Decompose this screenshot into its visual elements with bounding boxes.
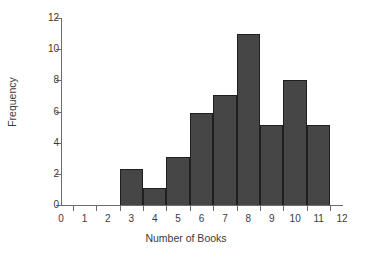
x-axis-tick-label: 10 (283, 214, 307, 224)
histogram-bar (190, 113, 213, 205)
x-axis-tick (166, 206, 167, 211)
x-axis-tick-label: 4 (143, 214, 167, 224)
x-axis-title: Number of Books (0, 232, 372, 244)
y-axis-tick-label: 4 (19, 138, 59, 148)
x-axis-tick-label: 6 (190, 214, 214, 224)
x-axis-tick-label: 0 (49, 214, 73, 224)
x-axis-tick (237, 206, 238, 211)
plot-area: 024681012 0123456789101112 Frequency Num… (0, 0, 372, 261)
histogram-bar (166, 157, 189, 205)
y-axis-tick-label: 12 (19, 13, 59, 23)
y-axis-tick-label: 6 (19, 107, 59, 117)
histogram-bar (260, 125, 283, 205)
y-axis-tick-label: 8 (19, 75, 59, 85)
x-axis-tick-label: 5 (166, 214, 190, 224)
histogram-bar (307, 125, 330, 205)
y-axis-tick-label: 2 (19, 169, 59, 179)
histogram-bar (143, 188, 166, 205)
x-axis-tick-label: 3 (119, 214, 143, 224)
x-axis-tick-label: 2 (96, 214, 120, 224)
x-axis-tick (260, 206, 261, 211)
x-axis-tick (330, 206, 331, 211)
x-axis-tick (213, 206, 214, 211)
x-axis-tick-label: 9 (260, 214, 284, 224)
histogram-bar (120, 169, 143, 205)
x-axis-tick (283, 206, 284, 211)
histogram-screenshot: 024681012 0123456789101112 Frequency Num… (0, 0, 372, 261)
histogram-bar (237, 34, 260, 205)
x-axis-tick-label: 1 (72, 214, 96, 224)
x-axis-tick (143, 206, 144, 211)
x-axis-line (61, 205, 343, 206)
x-axis-tick-label: 11 (307, 214, 331, 224)
y-axis-title: Frequency (6, 57, 18, 147)
x-axis-tick-label: 8 (236, 214, 260, 224)
y-axis-line (61, 18, 62, 206)
x-axis-tick-label: 12 (330, 214, 354, 224)
histogram-bar (283, 80, 306, 205)
y-axis-tick-label: 0 (19, 200, 59, 210)
x-axis-tick (96, 206, 97, 211)
x-axis-tick (307, 206, 308, 211)
x-axis-tick-label: 7 (213, 214, 237, 224)
y-axis-tick-label: 10 (19, 44, 59, 54)
x-axis-tick (73, 206, 74, 211)
x-axis-tick (120, 206, 121, 211)
histogram-bar (213, 95, 236, 205)
x-axis-tick (190, 206, 191, 211)
